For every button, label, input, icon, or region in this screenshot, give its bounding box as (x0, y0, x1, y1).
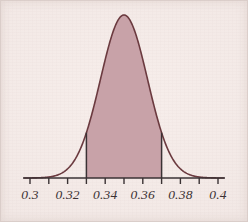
shaded-confidence-region (24, 15, 223, 178)
density-plot-svg: 0.30.320.340.360.380.4 (0, 0, 248, 222)
x-axis-label-0-32: 0.32 (55, 187, 79, 202)
x-axis-tick-marks (30, 178, 218, 184)
x-axis-label-0-38: 0.38 (168, 187, 192, 202)
x-axis-label-0-4: 0.4 (209, 187, 227, 202)
normal-distribution-figure: 0.30.320.340.360.380.4 (0, 0, 248, 222)
x-axis-label-0-36: 0.36 (131, 187, 155, 202)
x-axis-label-0-34: 0.34 (93, 187, 117, 202)
x-axis-tick-labels: 0.30.320.340.360.380.4 (21, 187, 227, 202)
x-axis-label-0-3: 0.3 (21, 187, 39, 202)
